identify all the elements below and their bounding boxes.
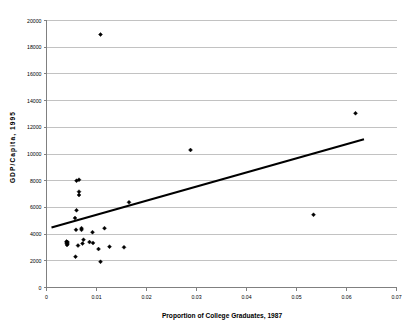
data-point-marker xyxy=(99,33,103,37)
trend-line-segment xyxy=(52,139,365,227)
x-tick-label: 0.06 xyxy=(341,294,351,300)
data-point-marker xyxy=(81,242,85,246)
data-point-marker xyxy=(75,208,79,212)
scatter-chart-figure: 0200040006000800010000120001400016000180… xyxy=(0,0,415,329)
data-point-marker xyxy=(99,260,103,264)
y-tick-label: 14000 xyxy=(27,98,42,104)
x-tick-label: 0.01 xyxy=(91,294,101,300)
data-point-marker xyxy=(312,213,316,217)
x-tick-label: 0.07 xyxy=(391,294,401,300)
data-point-marker xyxy=(74,255,78,259)
data-point-marker xyxy=(91,241,95,245)
data-point-marker xyxy=(91,230,95,234)
data-point-marker xyxy=(74,228,78,232)
x-tick-label: 0.05 xyxy=(291,294,301,300)
y-tick-label: 4000 xyxy=(30,231,42,237)
data-point-marker xyxy=(127,200,131,204)
data-point-marker xyxy=(82,238,86,242)
y-tick-label: 6000 xyxy=(30,204,42,210)
x-tick-label: 0 xyxy=(45,294,48,300)
data-point-marker xyxy=(103,226,107,230)
x-axis-title: Proportion of College Graduates, 1987 xyxy=(162,312,283,320)
y-tick-label: 2000 xyxy=(30,258,42,264)
data-point-marker xyxy=(76,244,80,248)
data-point-marker xyxy=(77,193,81,197)
y-tick-label: 10000 xyxy=(27,151,42,157)
data-points xyxy=(65,33,358,264)
trend-line xyxy=(52,139,365,227)
y-axis-ticks: 0200040006000800010000120001400016000180… xyxy=(27,18,46,291)
data-point-marker xyxy=(97,247,101,251)
y-tick-label: 0 xyxy=(39,285,42,291)
chart-canvas: 0200040006000800010000120001400016000180… xyxy=(0,0,415,329)
y-tick-label: 8000 xyxy=(30,178,42,184)
y-tick-label: 18000 xyxy=(27,44,42,50)
x-tick-label: 0.03 xyxy=(191,294,201,300)
y-tick-label: 16000 xyxy=(27,71,42,77)
data-point-marker xyxy=(189,148,193,152)
y-tick-label: 12000 xyxy=(27,124,42,130)
data-point-marker xyxy=(354,111,358,115)
data-point-marker xyxy=(108,245,112,249)
y-axis-title: GDP/Capita, 1995 xyxy=(9,111,17,183)
x-tick-label: 0.02 xyxy=(141,294,151,300)
y-tick-label: 20000 xyxy=(27,18,42,24)
data-point-marker xyxy=(88,240,92,244)
grid-lines xyxy=(47,21,397,261)
data-point-marker xyxy=(122,245,126,249)
x-tick-label: 0.04 xyxy=(241,294,251,300)
x-axis-ticks: 00.010.020.030.040.050.060.07 xyxy=(45,288,402,300)
